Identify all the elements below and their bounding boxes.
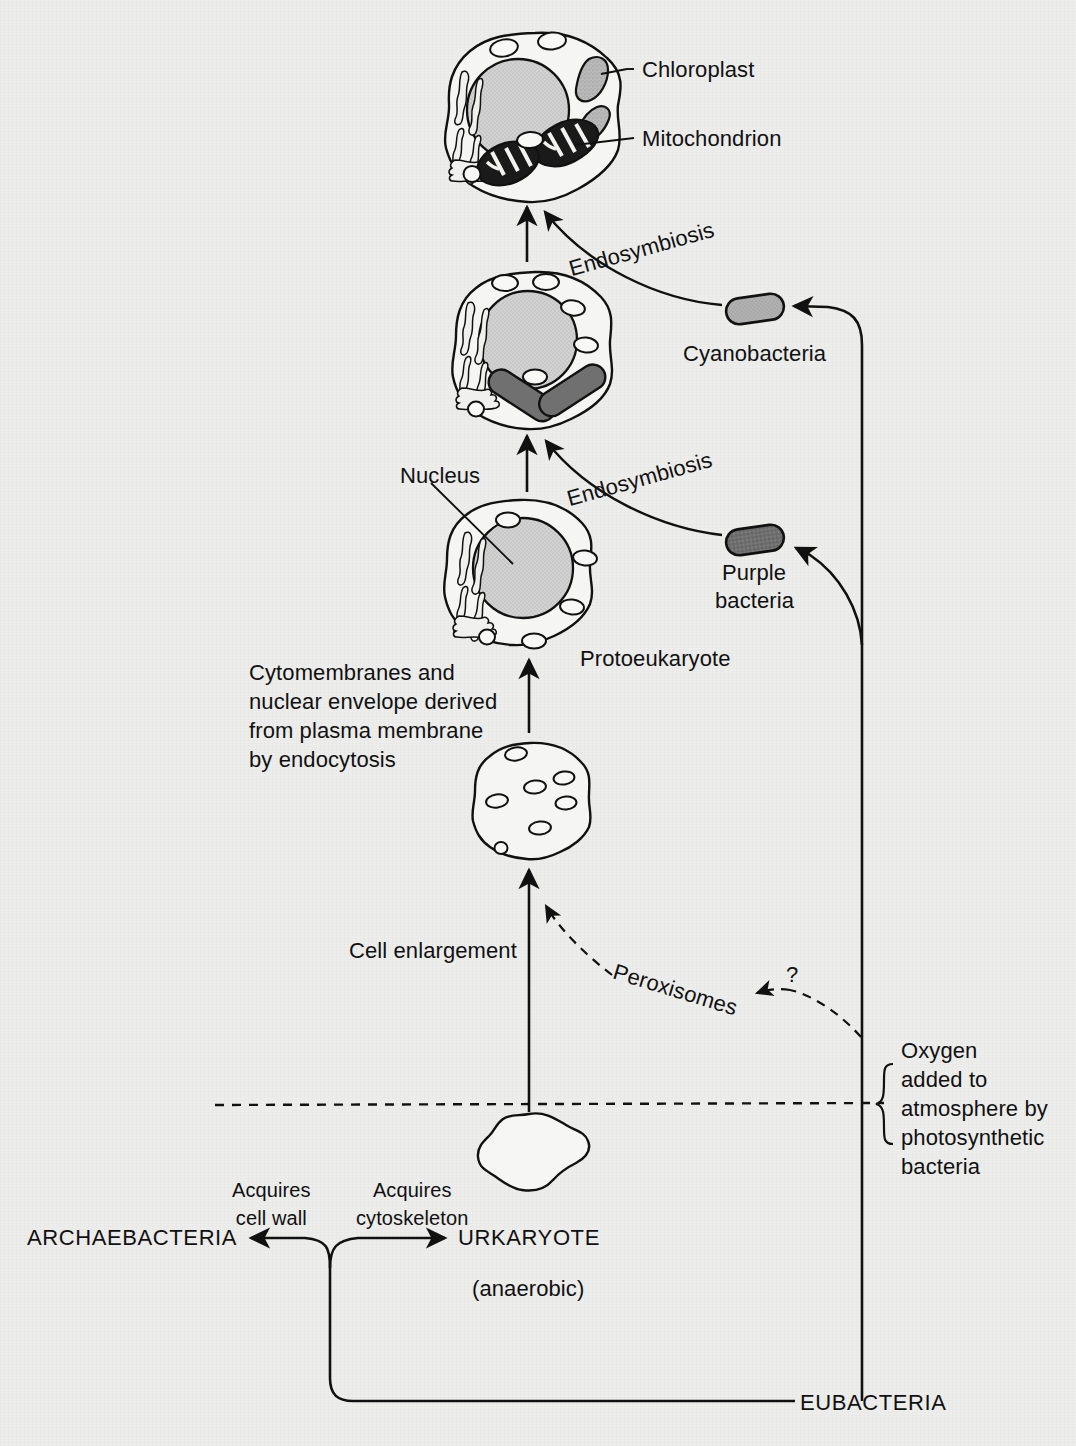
label-purple-bacteria-line1: Purple	[722, 559, 786, 586]
nucleus-shape	[473, 518, 573, 618]
eubacteria-branch-to-cyanobacteria	[794, 306, 862, 1047]
label-purple-bacteria-line2: bacteria	[715, 587, 794, 614]
branch-to-urkaryote	[330, 1238, 445, 1268]
label-protoeukaryote: Protoeukaryote	[580, 645, 731, 672]
label-acquires-cell-wall: Acquires cell wall	[232, 1176, 311, 1232]
label-archaebacteria: ARCHAEBACTERIA	[27, 1224, 237, 1251]
arrow-peroxisomes-dashed-left	[546, 906, 612, 975]
cell-proto-with-mitochondria	[452, 272, 612, 429]
label-mitochondrion: Mitochondrion	[642, 125, 782, 152]
label-cell-enlargement: Cell enlargement	[349, 937, 517, 964]
diagram-canvas: Chloroplast Mitochondrion Endosymbiosis …	[0, 0, 1076, 1446]
eubacteria-branch-to-purple-bacteria	[796, 548, 862, 645]
note-cytomembranes: Cytomembranes and nuclear envelope deriv…	[249, 658, 497, 774]
label-question-mark: ?	[786, 961, 798, 988]
label-anaerobic: (anaerobic)	[472, 1275, 584, 1302]
label-acquires-cytoskeleton: Acquires cytoskeleton	[356, 1176, 468, 1232]
label-nucleus: Nucleus	[400, 462, 480, 489]
cyanobacteria-shape	[724, 292, 785, 326]
purple-bacteria-shape	[724, 523, 785, 557]
arrow-peroxisomes-dashed-right	[757, 989, 790, 993]
note-oxygen-added: Oxygen added to atmosphere by photosynth…	[901, 1036, 1048, 1181]
branch-to-archaebacteria	[251, 1238, 330, 1268]
label-eubacteria: EUBACTERIA	[800, 1389, 947, 1416]
curly-brace	[876, 1064, 893, 1144]
urkaryote-cell-shape	[478, 1113, 589, 1190]
arrow-peroxisomes-dashed	[790, 990, 861, 1037]
oxygen-threshold-dashed-line	[215, 1103, 884, 1105]
label-cyanobacteria: Cyanobacteria	[683, 340, 826, 367]
label-chloroplast: Chloroplast	[642, 56, 754, 83]
label-urkaryote: URKARYOTE	[458, 1224, 600, 1251]
cell-modern-eukaryote	[445, 31, 621, 202]
